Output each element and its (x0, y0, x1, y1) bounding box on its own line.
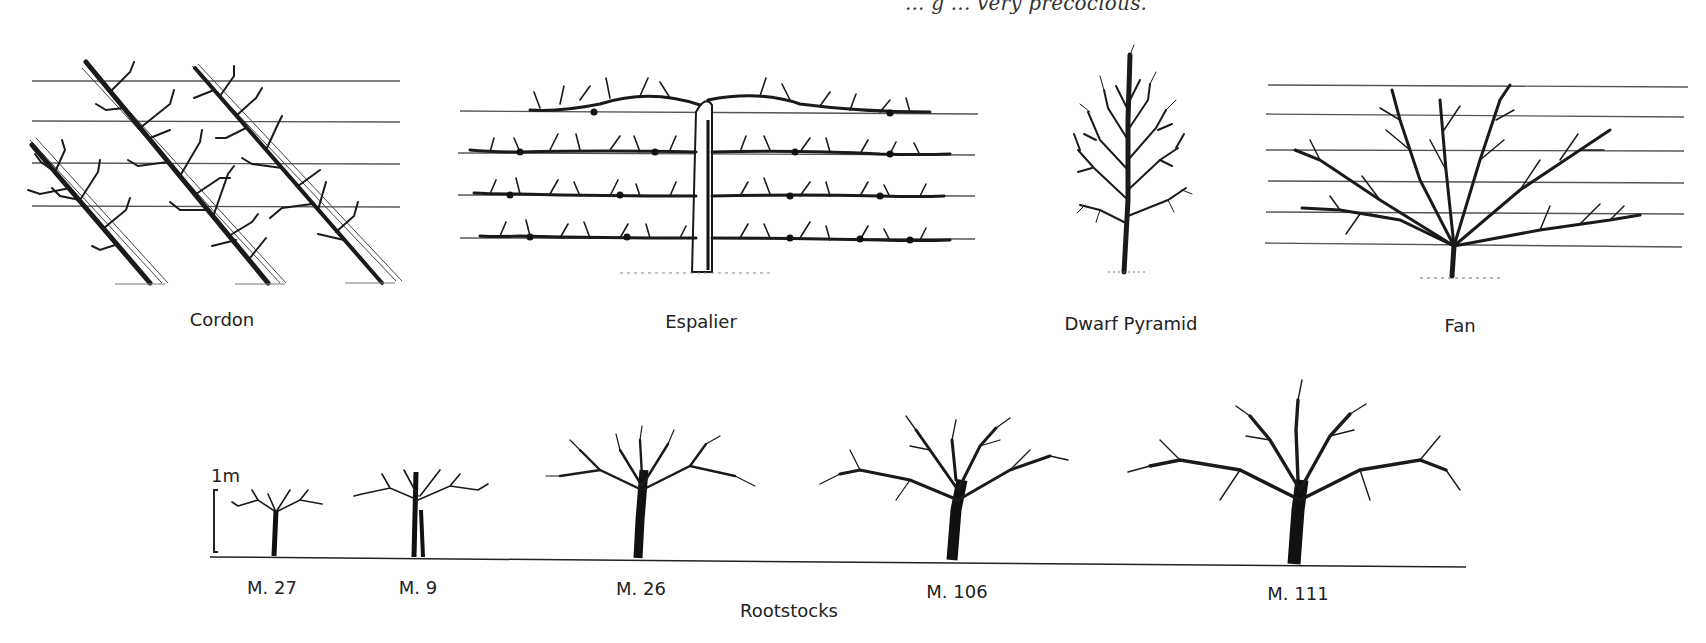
label-espalier: Espalier (665, 311, 737, 332)
tree-m27 (232, 490, 322, 556)
tree-m26 (546, 426, 755, 558)
tree-m111 (1128, 380, 1460, 564)
tree-m9 (354, 470, 488, 557)
label-m106: M. 106 (926, 581, 987, 602)
cordon-illustration (28, 62, 402, 284)
label-m26: M. 26 (616, 578, 666, 599)
fan-illustration (1265, 85, 1688, 278)
tree-m106 (820, 416, 1068, 560)
label-m27: M. 27 (247, 577, 297, 598)
label-cordon: Cordon (190, 309, 255, 330)
label-m111: M. 111 (1267, 583, 1328, 604)
rootstocks-illustration (210, 380, 1466, 567)
scale-bar (214, 490, 218, 552)
label-m9: M. 9 (399, 577, 437, 598)
espalier-illustration (458, 78, 978, 273)
label-dwarf-pyramid: Dwarf Pyramid (1065, 313, 1198, 334)
rootstocks-title: Rootstocks (740, 600, 838, 621)
dwarf-pyramid-illustration (1074, 45, 1192, 272)
label-fan: Fan (1444, 315, 1475, 336)
scale-label: 1m (211, 465, 240, 486)
